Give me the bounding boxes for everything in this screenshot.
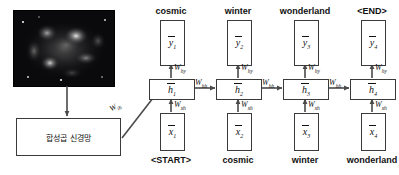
output-node-y3: y3 — [294, 20, 319, 66]
weight-label-xh-3: Wxh — [308, 100, 320, 111]
input-node-x1: x1 — [160, 113, 185, 151]
input-word-2: cosmic — [203, 155, 273, 165]
variable-y2: y2 — [236, 36, 243, 50]
hidden-node-h2: h2 — [216, 79, 262, 100]
output-word-4: <END> — [337, 6, 399, 16]
diagram-canvas: 합성곱 신경망 — [0, 0, 399, 175]
variable-y3: y3 — [303, 36, 310, 50]
weight-label-xh-1: Wxh — [174, 100, 186, 111]
hidden-node-h3: h3 — [283, 79, 329, 100]
weight-label-hy-2: Why — [241, 63, 253, 74]
variable-h3: h3 — [302, 83, 310, 97]
variable-x3: x3 — [303, 125, 310, 139]
input-node-x3: x3 — [294, 113, 319, 151]
variable-h2: h2 — [235, 83, 243, 97]
variable-h4: h4 — [369, 83, 377, 97]
variable-y4: y4 — [370, 36, 377, 50]
weight-label-xh-2: Wxh — [241, 100, 253, 111]
weight-label-hy-4: Why — [375, 63, 387, 74]
variable-y1: y1 — [169, 36, 176, 50]
variable-x1: x1 — [169, 125, 176, 139]
hidden-node-h4: h4 — [350, 79, 396, 100]
input-node-x2: x2 — [227, 113, 252, 151]
input-word-4: wonderland — [337, 155, 399, 165]
hidden-node-h1: h1 — [149, 79, 195, 100]
weight-label-hy-3: Why — [308, 63, 320, 74]
nebula-image-thumbnail — [13, 10, 115, 87]
weight-label-hh-2: Whh — [262, 78, 274, 89]
output-word-3: wonderland — [265, 6, 345, 16]
input-word-1: <START> — [136, 155, 206, 165]
variable-h1: h1 — [168, 83, 176, 97]
output-node-y2: y2 — [227, 20, 252, 66]
input-node-x4: x4 — [361, 113, 386, 151]
weight-label-xh-4: Wxh — [375, 100, 387, 111]
output-word-2: winter — [203, 6, 273, 16]
cnn-box-label: 합성곱 신경망 — [46, 132, 92, 143]
output-word-1: cosmic — [136, 6, 206, 16]
weight-label-ih: Wih — [108, 100, 123, 115]
variable-x2: x2 — [236, 125, 243, 139]
input-word-3: winter — [270, 155, 340, 165]
output-node-y4: y4 — [361, 20, 386, 66]
weight-label-hh-3: Whh — [329, 78, 341, 89]
variable-x4: x4 — [370, 125, 377, 139]
weight-label-hy-1: Why — [174, 63, 186, 74]
weight-label-hh-1: Whh — [195, 78, 207, 89]
convolutional-neural-network-box: 합성곱 신경망 — [16, 118, 121, 156]
output-node-y1: y1 — [160, 20, 185, 66]
